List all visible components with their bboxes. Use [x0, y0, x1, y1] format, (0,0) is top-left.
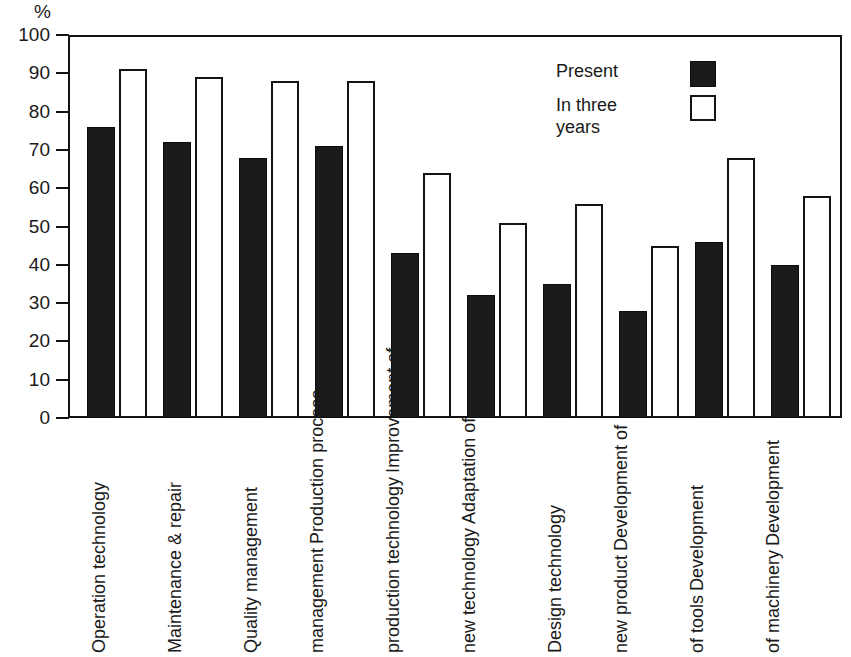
category-label-line: Development of — [611, 425, 631, 551]
bar-group — [315, 35, 375, 418]
category-label-line: Development — [763, 440, 783, 546]
bar-present — [239, 158, 267, 418]
category-label-line: Quality management — [241, 487, 261, 653]
bar-chart-figure: % 0102030405060708090100 Present In thre… — [0, 0, 851, 657]
y-axis-tick-label: 90 — [2, 63, 50, 82]
legend-swatch-present — [690, 61, 716, 87]
bar-future — [423, 173, 451, 418]
category-label-line: production technology — [383, 477, 403, 653]
y-axis-tick-label: 50 — [2, 217, 50, 236]
category-label: Quality management — [241, 483, 261, 653]
y-axis-tick-label: 70 — [2, 140, 50, 159]
bar-future — [119, 69, 147, 418]
y-axis-unit-label: % — [34, 2, 51, 21]
bar-future — [575, 204, 603, 418]
category-label-line: Development — [687, 485, 707, 591]
category-label: Operation technology — [89, 478, 109, 653]
category-label: Production processmanagement — [307, 386, 327, 653]
bar-group — [163, 35, 223, 418]
category-label-line: new product — [611, 555, 631, 653]
category-label-line: Production process — [307, 390, 327, 544]
y-axis-tick-label: 10 — [2, 370, 50, 389]
bar-group — [87, 35, 147, 418]
category-label-line: management — [307, 548, 327, 653]
bar-present — [315, 146, 343, 418]
bar-future — [347, 81, 375, 418]
y-axis-tick-label: 20 — [2, 331, 50, 350]
category-label: Development ofnew product — [611, 421, 631, 653]
category-label: Developmentof tools — [687, 481, 707, 653]
category-label-line: Maintenance & repair — [165, 482, 185, 653]
category-label-line: new technology — [459, 528, 479, 653]
bar-group — [467, 35, 527, 418]
bar-group — [239, 35, 299, 418]
bar-present — [163, 142, 191, 418]
legend-item-future: In three years — [556, 94, 786, 138]
category-label: Adaptation ofnew technology — [459, 414, 479, 653]
category-label: Improvement ofproduction technology — [383, 344, 403, 653]
bar-future — [271, 81, 299, 418]
legend-item-present: Present — [556, 60, 786, 87]
y-axis-tick-label: 80 — [2, 102, 50, 121]
bar-future — [651, 246, 679, 418]
legend-label-future-line2: years — [556, 117, 600, 137]
category-label-line: of machinery — [763, 550, 783, 653]
y-axis-tick-label: 30 — [2, 293, 50, 312]
bar-present — [695, 242, 723, 418]
bar-present — [619, 311, 647, 418]
bar-future — [803, 196, 831, 418]
y-axis-tick-label: 40 — [2, 255, 50, 274]
category-label-line: of tools — [687, 595, 707, 653]
bar-present — [87, 127, 115, 418]
y-axis-tick-label: 60 — [2, 178, 50, 197]
category-label-line: Adaptation of — [459, 418, 479, 524]
legend-label-present: Present — [556, 60, 676, 82]
y-axis-tick-label: 100 — [2, 25, 50, 44]
legend-label-future-line1: In three — [556, 95, 617, 115]
bar-present — [771, 265, 799, 418]
bar-future — [727, 158, 755, 418]
chart-legend: Present In three years — [556, 60, 786, 145]
category-label-line: Design technology — [545, 505, 565, 653]
category-label: Design technology — [545, 501, 565, 653]
bar-future — [499, 223, 527, 418]
category-label-line: Improvement of — [383, 348, 403, 473]
category-label: Developmentof machinery — [763, 436, 783, 653]
category-label: Maintenance & repair — [165, 478, 185, 653]
category-label-line: Operation technology — [89, 482, 109, 653]
category-labels-layer: Operation technologyMaintenance & repair… — [0, 424, 851, 657]
legend-swatch-future — [690, 95, 716, 121]
bar-present — [543, 284, 571, 418]
bar-future — [195, 77, 223, 418]
bar-present — [467, 295, 495, 418]
legend-label-future: In three years — [556, 94, 676, 138]
